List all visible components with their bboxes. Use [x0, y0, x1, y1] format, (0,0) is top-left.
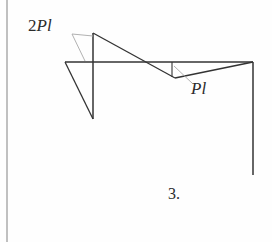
load-label-2pl-coefficient: 2 — [28, 16, 37, 35]
load-label-pl: Pl — [191, 80, 206, 97]
leader-line-2pl-upper — [72, 34, 93, 36]
figure-page: 2Pl Pl 3. — [0, 0, 272, 242]
right-rising-slope — [175, 62, 253, 78]
upper-right-slope — [93, 33, 175, 78]
leader-line-2pl-lower — [72, 34, 85, 61]
load-label-2pl-symbol: Pl — [37, 16, 52, 35]
load-label-2pl: 2Pl — [28, 17, 52, 34]
bending-moment-diagram — [0, 0, 272, 242]
load-label-pl-symbol: Pl — [191, 79, 206, 98]
left-lower-slope — [65, 62, 93, 119]
figure-caption: 3. — [168, 186, 180, 202]
